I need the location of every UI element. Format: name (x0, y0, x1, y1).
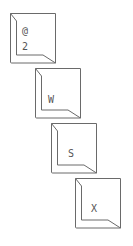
key-main-label: 2 (22, 42, 28, 52)
key-s[interactable]: S (50, 122, 98, 173)
key-x[interactable]: X (74, 177, 122, 228)
keycap-outline-icon (34, 67, 83, 120)
key-shift-label: @ (22, 26, 28, 36)
keycap-outline-icon (9, 12, 58, 65)
key-main-label: W (48, 95, 54, 105)
keycap-outline-icon (74, 177, 123, 230)
key-w[interactable]: W (34, 67, 82, 118)
keycap-outline-icon (50, 122, 99, 175)
key-2[interactable]: @ 2 (9, 12, 57, 63)
key-main-label: S (68, 149, 74, 159)
key-main-label: X (91, 204, 97, 214)
